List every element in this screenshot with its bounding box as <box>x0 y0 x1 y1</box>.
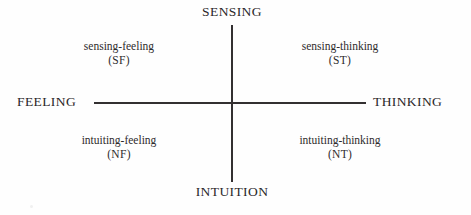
quadrant-name: sensing-feeling <box>39 39 199 53</box>
quadrant-name: sensing-thinking <box>260 39 420 53</box>
quadrant-name: intuiting-thinking <box>260 133 420 147</box>
quadrant-name: intuiting-feeling <box>39 133 199 147</box>
pole-label-thinking: THINKING <box>373 94 442 110</box>
quadrant-label-intuiting-thinking: intuiting-thinking (NT) <box>260 133 420 161</box>
scan-artifact-speck <box>30 205 33 208</box>
horizontal-axis-line <box>94 102 366 104</box>
quadrant-abbreviation: (NF) <box>39 147 199 161</box>
pole-label-intuition: INTUITION <box>0 184 464 200</box>
quadrant-label-sensing-feeling: sensing-feeling (SF) <box>39 39 199 67</box>
pole-label-sensing: SENSING <box>0 4 464 20</box>
quadrant-label-intuiting-feeling: intuiting-feeling (NF) <box>39 133 199 161</box>
quadrant-abbreviation: (ST) <box>260 53 420 67</box>
quadrant-abbreviation: (SF) <box>39 53 199 67</box>
pole-label-feeling: FEELING <box>17 94 76 110</box>
quadrant-diagram: SENSING INTUITION FEELING THINKING sensi… <box>0 0 471 215</box>
quadrant-abbreviation: (NT) <box>260 147 420 161</box>
quadrant-label-sensing-thinking: sensing-thinking (ST) <box>260 39 420 67</box>
